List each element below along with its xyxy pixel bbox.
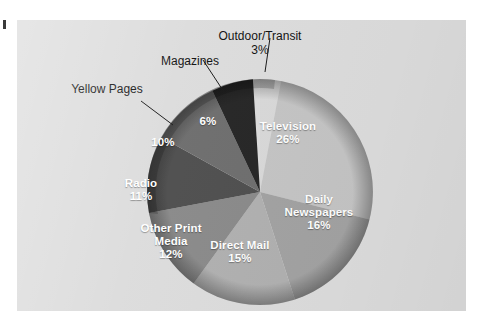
- pie-chart-graphic: [17, 20, 466, 311]
- leader-line-yellow-pages: [141, 101, 173, 125]
- pie-chart-panel: Television 26% Daily Newspapers 16% Dire…: [17, 20, 466, 311]
- scan-edge-artifact: [3, 20, 6, 29]
- leader-line-magazines: [203, 60, 224, 92]
- leader-line-outdoor-transit: [265, 38, 270, 72]
- chart-root: Television 26% Daily Newspapers 16% Dire…: [0, 0, 483, 326]
